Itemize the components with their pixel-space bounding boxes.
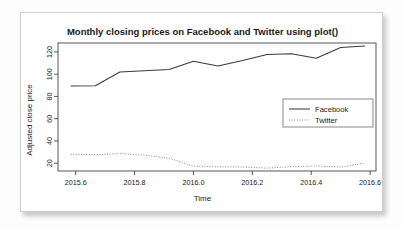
y-tick-label: 20 — [46, 159, 55, 167]
y-tick-label: 60 — [46, 115, 55, 123]
x-tick-label: 2016.0 — [182, 178, 204, 187]
x-tick-label: 2015.6 — [65, 178, 87, 187]
r-plot-figure: Monthly closing prices on Facebook and T… — [20, 12, 383, 212]
y-axis-title: Adjusted close price — [25, 84, 34, 156]
x-tick-label: 2016.2 — [241, 178, 263, 187]
x-tick-label: 2015.8 — [124, 178, 146, 187]
chart-legend[interactable]: FacebookTwitter — [283, 99, 373, 127]
chart-canvas: Monthly closing prices on Facebook and T… — [21, 13, 383, 211]
chart-title: Monthly closing prices on Facebook and T… — [67, 26, 338, 37]
legend-label-facebook: Facebook — [315, 105, 349, 114]
y-tick-label: 40 — [46, 137, 55, 145]
y-tick-label: 120 — [46, 46, 55, 58]
y-tick-label: 100 — [46, 68, 55, 80]
y-tick-label: 80 — [46, 92, 55, 100]
legend-label-twitter: Twitter — [315, 116, 338, 125]
x-tick-label: 2016.6 — [359, 178, 381, 187]
screenshot-root: Monthly closing prices on Facebook and T… — [0, 0, 402, 230]
x-tick-label: 2016.4 — [300, 178, 322, 187]
x-axis-title: Time — [194, 194, 212, 203]
